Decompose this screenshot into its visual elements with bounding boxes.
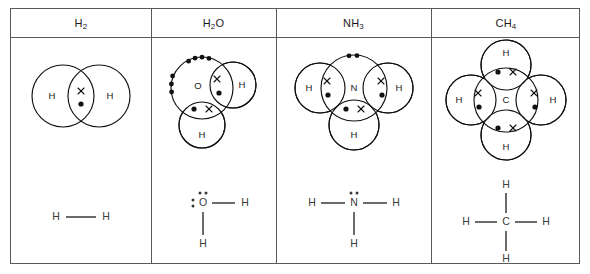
- lewis-atom-h-left: H: [52, 210, 60, 222]
- lewis-atom-h-right: H: [542, 215, 550, 227]
- dot-cross-diagram-h2o: O H H: [151, 37, 276, 167]
- bonding-pair-1: [78, 88, 84, 107]
- lewis-atom-n: N: [350, 196, 358, 208]
- electron-dot: [325, 92, 330, 97]
- atom-label-h-left: H: [456, 94, 463, 105]
- lewis-atom-o: O: [198, 196, 206, 208]
- lewis-atom-h-top: H: [502, 178, 510, 190]
- shell-h-left: [32, 65, 94, 127]
- lewis-lone-pair-left: [191, 199, 194, 208]
- formula-ch4: CH4: [496, 17, 517, 29]
- atom-label-o: O: [194, 80, 201, 91]
- atom-label-h-bottom: H: [350, 129, 357, 140]
- cell-h2o: O H H: [151, 37, 276, 265]
- atom-label-c: C: [503, 94, 510, 105]
- column-header-h2: H2: [11, 9, 151, 37]
- lewis-structure-ch4: H C H H H: [431, 167, 581, 265]
- atom-label-h-left: H: [49, 90, 56, 101]
- electron-dot: [476, 104, 481, 109]
- lewis-atom-h-right: H: [102, 210, 110, 222]
- lewis-structure-nh3: N H H H: [276, 167, 431, 265]
- column-header-h2o: H2O: [151, 9, 276, 37]
- atom-label-h-right: H: [107, 90, 114, 101]
- shell-o-central: [171, 57, 233, 119]
- atom-label-h-right: H: [550, 94, 557, 105]
- cell-nh3: N H H H: [276, 37, 431, 265]
- lewis-atom-h-right: H: [241, 196, 249, 208]
- dot-cross-diagram-ch4: C H H H H: [431, 37, 581, 167]
- electron-dot: [379, 92, 384, 97]
- dot-cross-diagram-nh3: N H H H: [276, 37, 431, 167]
- electron-dot: [343, 106, 348, 111]
- electron-dot: [191, 106, 196, 111]
- atom-label-n: N: [350, 82, 357, 93]
- atom-label-h-right: H: [395, 82, 402, 93]
- electron-cross: [78, 88, 84, 94]
- lewis-lone-pair-top: [349, 192, 358, 195]
- formula-h2: H2: [75, 17, 88, 29]
- figure-canvas: H2 H2O NH3 CH4 H H: [0, 0, 590, 274]
- lewis-lone-pair-top: [198, 192, 207, 195]
- shell-h-right: [68, 65, 130, 127]
- bonding-table: H2 H2O NH3 CH4 H H: [10, 8, 580, 264]
- lewis-structure-h2: H H: [11, 167, 151, 265]
- cell-h2: H H H H: [11, 37, 151, 265]
- column-header-nh3: NH3: [276, 9, 431, 37]
- lewis-structure-h2o: O H H: [151, 167, 276, 265]
- atom-label-h-right: H: [238, 79, 245, 90]
- lewis-atom-c: C: [502, 215, 510, 227]
- electron-dot: [532, 104, 537, 109]
- lewis-atom-h-left: H: [308, 196, 316, 208]
- atom-label-h-bottom: H: [503, 141, 510, 152]
- lewis-atom-h-right: H: [392, 196, 400, 208]
- atom-label-h-left: H: [305, 82, 312, 93]
- atom-label-h-bottom: H: [198, 129, 205, 140]
- electron-dot: [495, 69, 500, 74]
- cell-ch4: C H H H H: [431, 37, 581, 265]
- lewis-atom-h-bottom: H: [350, 237, 358, 249]
- dot-cross-diagram-h2: H H: [11, 37, 151, 167]
- electron-dot: [78, 101, 83, 106]
- formula-h2o: H2O: [203, 17, 225, 29]
- formula-nh3: NH3: [343, 17, 364, 29]
- atom-label-h-top: H: [503, 47, 510, 58]
- electron-dot: [216, 90, 221, 95]
- lewis-atom-h-bottom: H: [199, 237, 207, 249]
- lewis-atom-h-bottom: H: [502, 252, 510, 263]
- electron-dot: [495, 125, 500, 130]
- column-header-ch4: CH4: [431, 9, 581, 37]
- lewis-atom-h-left: H: [462, 215, 470, 227]
